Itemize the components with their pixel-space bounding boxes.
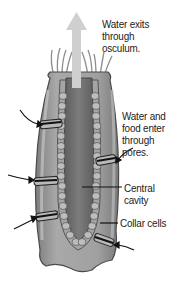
pore-1 bbox=[40, 119, 63, 129]
label-collar-cells: Collar cells bbox=[120, 217, 166, 229]
sponge-diagram: Water exits through osculum. Water and f… bbox=[0, 0, 179, 283]
label-central-cavity: Central cavity bbox=[124, 182, 155, 206]
inflow-arrow-4 bbox=[14, 219, 34, 229]
inflow-arrow-3 bbox=[8, 175, 30, 180]
inflow-arrow-1 bbox=[20, 110, 38, 124]
label-pores: Water and food enter through pores. bbox=[122, 110, 166, 158]
label-osculum: Water exits through osculum. bbox=[102, 18, 149, 54]
inflow-arrow-5 bbox=[118, 245, 134, 250]
central-cavity bbox=[64, 78, 94, 240]
pore-3 bbox=[34, 176, 58, 186]
